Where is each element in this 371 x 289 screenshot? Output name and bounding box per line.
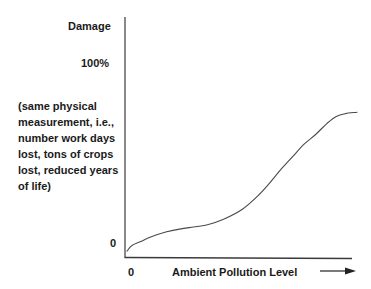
x-axis-line [125, 258, 353, 259]
chart-plot-area [0, 0, 371, 289]
damage-curve [127, 112, 357, 251]
arrow-right-icon [320, 268, 356, 275]
